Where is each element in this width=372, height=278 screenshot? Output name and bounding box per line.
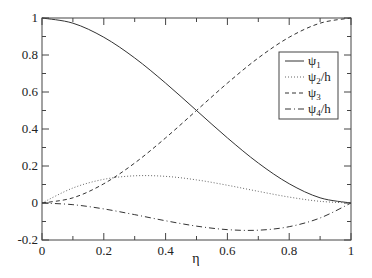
plot-frame: [42, 18, 351, 240]
curves: [42, 18, 351, 230]
y-tick-label: 0.8: [22, 47, 38, 62]
axis-ticks: [42, 18, 351, 240]
series-line-4: [42, 203, 351, 230]
x-tick-label: 1: [348, 243, 355, 258]
x-axis-label: η: [192, 251, 199, 266]
x-tick-label: 0.8: [281, 243, 297, 258]
y-tick-label: 1: [32, 10, 39, 25]
y-tick-label: 0.6: [22, 84, 39, 99]
x-tick-label: 0: [39, 243, 46, 258]
x-tick-label: 0.6: [219, 243, 236, 258]
y-tick-label: 0.2: [22, 158, 38, 173]
series-line-2: [42, 176, 351, 203]
tick-labels: 00.20.40.60.81-0.200.20.40.60.81: [17, 10, 354, 258]
legend: ψ1ψ2/hψ3ψ4/h: [279, 52, 338, 119]
y-tick-label: 0: [32, 195, 39, 210]
y-tick-label: 0.4: [22, 121, 39, 136]
x-tick-label: 0.4: [157, 243, 174, 258]
line-chart: 00.20.40.60.81-0.200.20.40.60.81 η ψ1ψ2/…: [0, 0, 372, 278]
y-tick-label: -0.2: [17, 232, 38, 247]
x-tick-label: 0.2: [96, 243, 112, 258]
